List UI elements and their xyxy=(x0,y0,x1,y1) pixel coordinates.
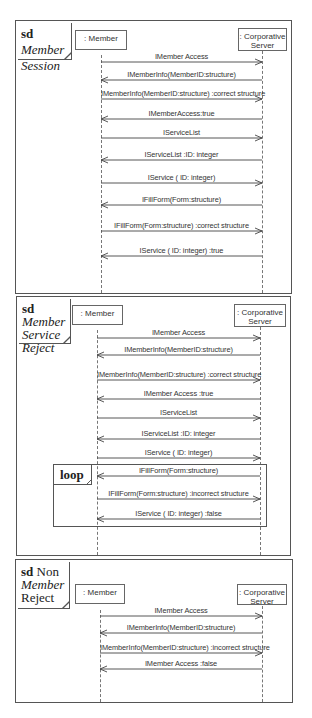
arrow-right-icon xyxy=(97,376,260,386)
arrow-right-icon xyxy=(97,414,260,424)
lifeline-corporative-server xyxy=(262,51,263,293)
folded-corner-icon xyxy=(62,601,70,609)
arrow-right-icon xyxy=(101,134,262,144)
loop-operator-tag: loop xyxy=(54,465,92,485)
folded-corner-icon xyxy=(86,479,92,485)
sd-keyword: sd xyxy=(21,26,33,41)
sequence-diagram-non-member-reject: sd Non Member Reject : Member : Corporat… xyxy=(15,559,293,703)
loop-keyword: loop xyxy=(60,467,84,482)
arrow-right-icon xyxy=(100,612,262,622)
lifeline-member-box: : Member xyxy=(72,305,123,325)
arrow-left-icon xyxy=(100,665,262,675)
folded-corner-icon xyxy=(63,336,71,344)
frame-title-tag: sd Member Service Reject xyxy=(19,299,71,344)
arrow-left-icon xyxy=(101,201,262,211)
lifeline-corporative-server-box: : Corporative Server xyxy=(234,304,286,327)
arrow-right-icon xyxy=(100,649,262,659)
sequence-diagram-member-service-reject: sd Member Service Reject : Member : Corp… xyxy=(16,296,291,556)
title-text: Reject xyxy=(22,340,54,355)
arrow-left-icon xyxy=(97,351,260,361)
folded-corner-icon xyxy=(64,52,72,60)
arrow-left-icon xyxy=(97,515,260,525)
arrow-left-icon xyxy=(101,115,262,125)
arrow-right-icon xyxy=(97,495,260,505)
arrow-left-icon xyxy=(100,629,262,639)
arrow-right-icon xyxy=(97,454,260,464)
arrow-right-icon xyxy=(97,334,260,344)
sequence-diagram-member-session: sd Member Session : Member : Corporative… xyxy=(15,20,292,294)
title-text: Member xyxy=(21,42,64,57)
arrow-right-icon xyxy=(101,179,262,189)
arrow-left-icon xyxy=(97,472,260,482)
lifeline-corporative-server-box: : Corporative Server xyxy=(237,584,287,605)
arrow-left-icon xyxy=(101,76,262,86)
arrow-left-icon xyxy=(97,395,260,405)
arrow-right-icon xyxy=(101,95,262,105)
title-text: Session xyxy=(21,58,60,73)
arrow-left-icon xyxy=(97,435,260,445)
lifeline-member-box: : Member xyxy=(75,30,127,50)
arrow-right-icon xyxy=(101,227,262,237)
title-text: Reject xyxy=(21,590,54,605)
arrow-left-icon xyxy=(101,156,262,166)
lifeline-corporative-server xyxy=(262,606,263,702)
lifeline-corporative-server-box: : Corporative Server xyxy=(238,28,287,51)
frame-title-tag: sd Non Member Reject xyxy=(18,562,70,609)
frame-title-tag: sd Member Session xyxy=(18,23,72,60)
arrow-right-icon xyxy=(101,58,262,68)
lifeline-member-box: : Member xyxy=(75,584,125,604)
arrow-left-icon xyxy=(101,252,262,262)
